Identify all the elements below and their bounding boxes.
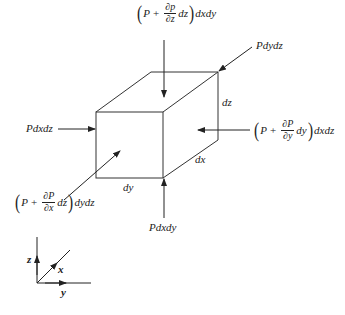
top-force-label: ( P + ∂p ∂z dz ) dxdy xyxy=(136,2,216,24)
coordinate-axes xyxy=(37,237,91,283)
bottom-force-label: Pdxdy xyxy=(149,222,176,233)
cube-front-face xyxy=(96,112,163,178)
partial-fraction: ∂P ∂y xyxy=(281,119,294,141)
edge-label-dz: dz xyxy=(222,97,232,108)
cube-right-face xyxy=(163,72,218,178)
cube-top-face xyxy=(96,72,218,112)
diagram-canvas xyxy=(0,0,345,315)
axis-label-z: z xyxy=(27,254,31,265)
arrow-back-force xyxy=(219,47,252,71)
right-force-label: ( P + ∂P ∂y dy ) dxdz xyxy=(253,119,334,141)
partial-fraction: ∂P ∂x xyxy=(42,191,55,213)
axis-label-y: y xyxy=(61,287,66,298)
front-force-label: ( P + ∂P ∂x dz ) dydz xyxy=(14,191,95,213)
partial-fraction: ∂p ∂z xyxy=(164,2,176,24)
back-force-label: Pdydz xyxy=(256,40,283,51)
edge-label-dy: dy xyxy=(123,182,133,193)
left-force-label: Pdxdz xyxy=(26,123,53,134)
axis-label-x: x xyxy=(58,264,64,275)
edge-label-dx: dx xyxy=(195,154,205,165)
